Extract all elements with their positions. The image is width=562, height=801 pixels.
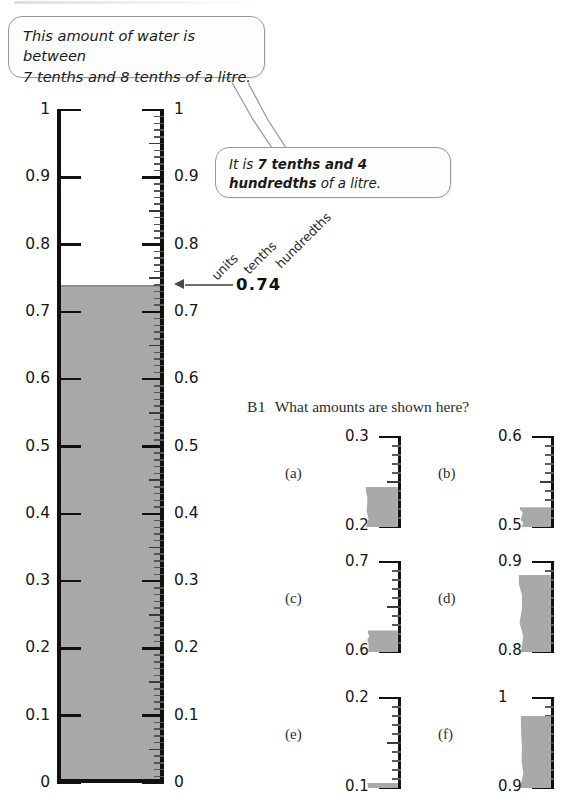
mini-minor-tick [392,588,401,590]
major-tick-right [142,714,164,717]
minor-tick-right [154,338,164,340]
scale-label-left: 0.8 [8,235,50,253]
mini-water-fill [364,630,398,652]
minor-tick-right [154,392,164,394]
minor-tick-right [154,318,164,320]
minor-tick-right [154,755,164,757]
scale-label-left: 0.1 [8,706,50,724]
mid-tick-right [149,547,164,549]
minor-tick-right [154,675,164,677]
mini-bottom-label: 0.6 [345,641,369,659]
water-fill [61,285,160,779]
mini-minor-tick [392,733,401,735]
minor-tick-right [154,237,164,239]
minor-tick-right [154,190,164,192]
mini-scale-column [500,698,554,788]
minor-tick-right [154,587,164,589]
mini-major-tick [532,697,554,699]
minor-tick-right [154,230,164,232]
mini-mid-tick [387,606,401,608]
readout-arrow-line [185,284,233,286]
mini-minor-tick [392,472,401,474]
mini-minor-tick [392,706,401,708]
minor-tick-right [154,708,164,710]
mini-minor-tick [392,597,401,599]
minor-tick-right [154,607,164,609]
mini-scale-item: (d)0.90.8 [438,562,558,652]
mini-scale-item: (b)0.60.5 [438,437,558,527]
minor-tick-right [154,634,164,636]
mini-water-fill [364,783,398,788]
column-word-hundredths: hundredths [272,209,334,271]
scale-label-right: 0.3 [174,571,199,589]
mini-major-tick [532,561,554,563]
mini-minor-tick [392,570,401,572]
mini-mid-tick [387,481,401,483]
minor-tick-right [154,372,164,374]
mid-tick-right [149,681,164,683]
mini-minor-tick [545,570,554,572]
mini-minor-tick [392,579,401,581]
mid-tick-right [149,412,164,414]
mini-minor-tick [392,760,401,762]
scale-label-right: 0.2 [174,638,199,656]
mini-major-tick [379,697,401,699]
mini-mid-tick [387,742,401,744]
minor-tick-right [154,594,164,596]
mini-minor-tick [392,463,401,465]
mid-tick-right [149,614,164,616]
mini-scale-letter: (a) [285,465,302,482]
mini-minor-tick [545,490,554,492]
minor-tick-right [154,527,164,529]
minor-tick-right [154,284,164,286]
scale-label-left: 0.3 [8,571,50,589]
minor-tick-right [154,365,164,367]
scale-label-left: 0.2 [8,638,50,656]
minor-tick-right [154,203,164,205]
mini-scale-letter: (c) [285,590,302,607]
minor-tick-right [154,419,164,421]
major-tick-right [142,311,164,314]
minor-tick-right [154,540,164,542]
mini-minor-tick [392,751,401,753]
minor-tick-right [154,352,164,354]
major-tick-right [142,109,164,112]
minor-tick-right [154,722,164,724]
mini-mid-tick [540,481,554,483]
major-tick-right [142,176,164,179]
mini-bottom-label: 0.1 [345,777,369,795]
question-text: What amounts are shown here? [275,398,470,415]
minor-tick-right [154,520,164,522]
scale-label-left: 0.6 [8,369,50,387]
major-tick-left [57,445,81,448]
minor-tick-right [154,695,164,697]
major-tick-left [57,513,81,516]
minor-tick-right [154,123,164,125]
scale-label-left: 0.4 [8,504,50,522]
minor-tick-right [154,325,164,327]
mini-minor-tick [545,463,554,465]
mini-minor-tick [392,445,401,447]
mini-scale-column [347,437,401,527]
question-heading: B1What amounts are shown here? [247,398,469,416]
mini-bottom-label: 0.5 [498,516,522,534]
mini-minor-tick [545,472,554,474]
question-number: B1 [247,398,266,415]
minor-tick-right [154,601,164,603]
minor-tick-right [154,641,164,643]
minor-tick-right [154,129,164,131]
mini-minor-tick [392,715,401,717]
mini-minor-tick [392,624,401,626]
minor-tick-right [154,291,164,293]
mini-minor-tick [545,445,554,447]
mid-tick-right [149,479,164,481]
scale-label-left: 0.5 [8,437,50,455]
major-tick-left [57,647,81,650]
scale-label-right: 0.5 [174,437,199,455]
mini-water-fill [517,716,551,788]
mini-minor-tick [392,778,401,780]
minor-tick-right [154,304,164,306]
scale-label-right: 0.6 [174,369,199,387]
major-tick-right [142,445,164,448]
minor-tick-right [154,701,164,703]
